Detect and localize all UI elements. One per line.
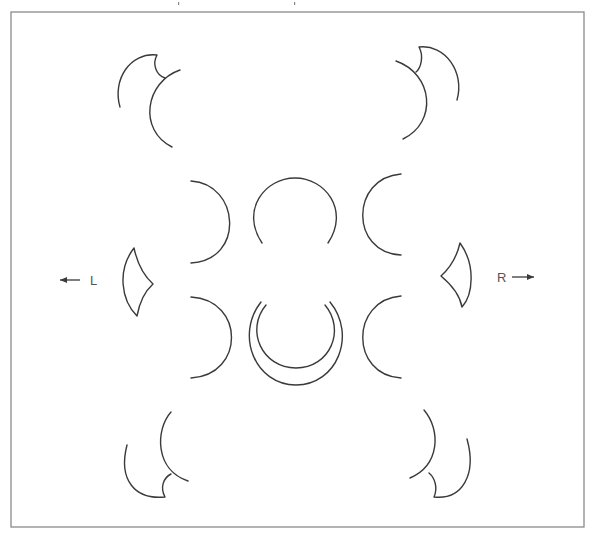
middle-left-upper-arc [191, 181, 230, 263]
bottom-right-cusp-inner [410, 410, 435, 478]
left-lens [123, 248, 153, 316]
bottom-left-cusp-outer [125, 445, 171, 497]
middle-right-lower-arc [363, 296, 401, 378]
top-edge-mark [178, 2, 179, 5]
right-arrow-icon [512, 274, 534, 280]
right-side-label: R [497, 271, 506, 284]
middle-center-lower-outer-arc [249, 302, 342, 385]
right-arrow-head [527, 274, 534, 280]
top-left-cusp-inner [150, 70, 180, 147]
middle-left-lower-arc [191, 297, 232, 378]
top-edge-marks [178, 2, 295, 5]
bottom-left-cusp-inner [161, 412, 188, 481]
bottom-right-cusp-outer [429, 439, 470, 497]
right-lens [441, 243, 471, 307]
top-edge-mark [294, 2, 295, 5]
left-arrow-head [60, 277, 67, 283]
top-right-cusp-inner [396, 61, 427, 139]
middle-center-upper-arc [254, 178, 337, 243]
middle-center-lower-inner-arc [257, 305, 335, 368]
top-right-cusp-outer [416, 47, 459, 100]
left-arrow-icon [60, 277, 80, 283]
arc-shapes-group [118, 47, 471, 498]
left-side-label: L [90, 274, 97, 287]
middle-right-upper-arc [363, 174, 401, 255]
top-left-cusp-outer [118, 55, 165, 107]
